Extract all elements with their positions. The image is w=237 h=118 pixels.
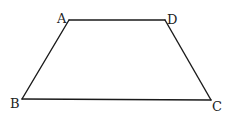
vertex-label-B: B [10,96,20,111]
edge-DC [165,20,211,100]
trapezoid-diagram: A D B C [0,0,237,118]
vertex-label-D: D [167,12,177,27]
edge-CB [22,99,211,100]
edge-BA [22,20,69,99]
vertex-label-C: C [212,99,222,114]
vertex-label-A: A [56,11,67,26]
